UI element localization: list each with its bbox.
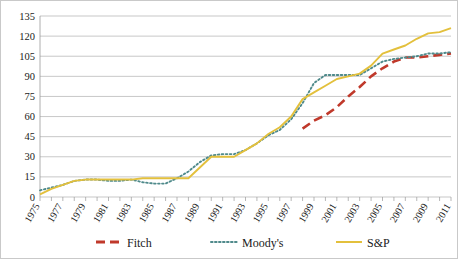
x-axis-tick-label: 2001 (319, 202, 339, 225)
series-line-sp (40, 28, 451, 194)
series-lines (40, 28, 451, 194)
y-axis-ticks: 0153045607590105120135 (19, 11, 35, 203)
legend-label-moodys: Moody's (242, 236, 284, 250)
y-axis-tick-label: 0 (30, 192, 35, 203)
legend-label-fitch: Fitch (127, 236, 152, 250)
x-axis-tick-label: 1981 (91, 202, 111, 225)
x-axis-tick-label: 1977 (45, 202, 65, 225)
series-line-moodys (40, 52, 451, 190)
y-axis-tick-label: 120 (19, 31, 35, 42)
y-axis-tick-label: 30 (25, 151, 36, 162)
x-axis-tick-label: 1985 (136, 202, 156, 225)
x-axis-tick-label: 1991 (205, 202, 225, 225)
x-axis-tick-label: 1999 (296, 202, 316, 225)
x-axis-tick-label: 1997 (273, 202, 293, 225)
y-axis-tick-label: 75 (25, 91, 36, 102)
x-axis-ticks (40, 197, 451, 201)
line-chart: 0153045607590105120135 19751977197919811… (1, 1, 458, 259)
x-axis-tick-label: 1979 (68, 202, 88, 225)
x-axis-tick-label: 2011 (433, 202, 452, 225)
x-axis-tick-label: 1989 (182, 202, 202, 225)
y-axis-tick-label: 60 (25, 111, 36, 122)
x-axis-tick-label: 2005 (365, 202, 385, 225)
x-axis-tick-label: 1975 (22, 202, 42, 225)
legend-label-sp: S&P (367, 236, 390, 250)
y-axis-tick-label: 90 (25, 71, 36, 82)
x-axis-labels: 1975197719791981198319851987198919911993… (22, 202, 453, 225)
y-axis-tick-label: 135 (19, 11, 35, 22)
chart-container: 0153045607590105120135 19751977197919811… (0, 0, 458, 259)
series-line-fitch (303, 54, 451, 129)
x-axis-tick-label: 1987 (159, 202, 179, 225)
x-axis-tick-label: 1993 (228, 202, 248, 225)
x-axis-tick-label: 1983 (114, 202, 134, 225)
x-axis-tick-label: 2003 (342, 202, 362, 225)
x-axis-tick-label: 1995 (251, 202, 271, 225)
x-axis-tick-label: 2009 (410, 202, 430, 225)
x-axis-tick-label: 2007 (388, 202, 408, 225)
chart-legend: FitchMoody'sS&P (96, 236, 390, 250)
y-axis-tick-label: 105 (19, 51, 35, 62)
gridlines-group (40, 16, 451, 197)
y-axis-tick-label: 15 (25, 171, 36, 182)
y-axis-tick-label: 45 (25, 131, 36, 142)
